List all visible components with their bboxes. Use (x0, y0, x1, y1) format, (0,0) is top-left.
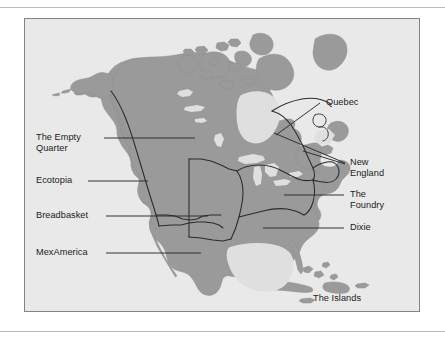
label-new-england-line1: New (350, 157, 369, 167)
figure-nine-nations-map: The EmptyQuarter Ecotopia Breadbasket Me… (0, 0, 445, 339)
top-rule (0, 7, 445, 8)
label-dixie: Dixie (350, 222, 371, 233)
label-mexamerica: MexAmerica (36, 247, 88, 258)
banks-island (178, 55, 197, 73)
label-new-england: NewEngland (350, 157, 384, 178)
label-the-foundry-line1: The (350, 189, 366, 199)
label-the-foundry-line2: Foundry (350, 200, 384, 210)
map-panel: The EmptyQuarter Ecotopia Breadbasket Me… (24, 18, 420, 312)
ellesmere-island (250, 33, 273, 55)
label-quebec: Quebec (326, 97, 358, 108)
label-breadbasket: Breadbasket (36, 210, 88, 221)
label-the-empty-quarter-line2: Quarter (36, 143, 68, 153)
label-the-islands: The Islands (313, 293, 361, 304)
label-ecotopia: Ecotopia (36, 175, 72, 186)
label-the-foundry: TheFoundry (350, 189, 384, 210)
label-new-england-line2: England (350, 168, 384, 178)
bottom-rule (0, 331, 445, 332)
label-the-empty-quarter-line1: The Empty (36, 132, 81, 142)
label-the-empty-quarter: The EmptyQuarter (36, 132, 81, 153)
